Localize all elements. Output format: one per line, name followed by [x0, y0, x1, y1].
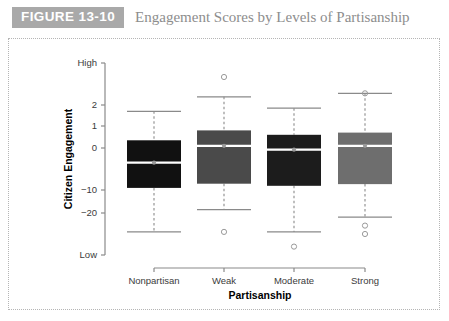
figure-number-badge: FIGURE 13-10 — [12, 7, 124, 28]
figure-title: Engagement Scores by Levels of Partisans… — [135, 9, 410, 26]
figure-root: FIGURE 13-10 Engagement Scores by Levels… — [0, 0, 449, 321]
figure-header: FIGURE 13-10 Engagement Scores by Levels… — [12, 7, 410, 28]
figure-panel — [8, 38, 440, 310]
